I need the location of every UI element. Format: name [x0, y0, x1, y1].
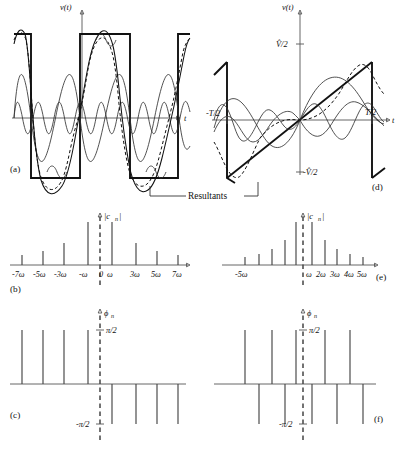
panel-b-y-axis-label-group: |c n |: [104, 212, 121, 222]
panel-e-tick-pos3: 3ω: [329, 270, 340, 279]
panel-b-label: (b): [10, 284, 21, 294]
panel-d: v(t) V̂/2 -V̂/2 -T/2 T/2 t (d): [206, 3, 395, 192]
panel-a-y-axis-label: v(t): [60, 3, 72, 12]
panel-e-y-axis-label-sub: n: [318, 215, 321, 222]
panel-a-x-axis-label: t: [184, 114, 187, 123]
panel-e-tick-pos1: ω: [306, 270, 312, 279]
panel-f-label: (f): [374, 414, 383, 424]
panel-c-tick-pos-label: π/2: [106, 326, 117, 335]
panel-f-y-arrowhead: [301, 309, 305, 313]
panel-d-ramp-right-tail: [372, 168, 385, 178]
resultants-annotation: Resultants: [150, 182, 258, 201]
panel-c-tick-neg-label: -π/2: [76, 420, 90, 429]
panel-d-y-axis-label: v(t): [282, 3, 294, 12]
resultants-leader-left: [150, 186, 186, 196]
panel-c-y-axis-label-sub: n: [111, 312, 114, 319]
panel-d-ramp-left-tail: [214, 62, 227, 75]
panel-e-y-axis-label-group: |c n |: [307, 212, 324, 222]
panel-f-y-axis-label: ϕ: [307, 309, 312, 318]
panel-a-resultant-dashed: [14, 33, 190, 190]
panel-a-ripple-bottom-1: [47, 166, 67, 178]
panel-b-tick-neg3: -3ω: [54, 270, 67, 279]
panel-e-tick-pos5: 5ω: [357, 270, 367, 279]
resultants-leader-right: [244, 182, 258, 196]
panel-b-y-axis-label-sub: n: [115, 215, 118, 222]
panel-d-y-tick-neg-label: -V̂/2: [303, 167, 317, 177]
panel-d-label: (d): [372, 182, 383, 192]
panel-f: ϕ n π/2 -π/2 (f): [214, 309, 383, 440]
panel-e-tick-pos4: 4ω: [344, 270, 354, 279]
panel-d-x-axis-label: t: [392, 116, 395, 125]
panel-b-tick-neg5: -5ω: [33, 270, 46, 279]
panel-b-tick-pos1: ω: [107, 270, 113, 279]
panel-d-x-tick-neg-label: -T/2: [206, 109, 220, 118]
panel-b-tick-zero: 0: [99, 270, 103, 279]
panel-a: v(t) t (a): [10, 3, 190, 194]
panel-b-tick-neg1: -ω: [79, 270, 88, 279]
fourier-series-figure: v(t) t (a) v(t) V̂/2 -V̂/2: [0, 0, 400, 452]
resultants-label: Resultants: [188, 191, 227, 201]
panel-f-y-axis-label-sub: n: [314, 312, 317, 319]
panel-c-label: (c): [10, 410, 20, 420]
panel-e-y-arrowhead: [301, 213, 305, 217]
panel-b-tick-pos7: 7ω: [172, 270, 182, 279]
panel-b-y-arrowhead: [98, 213, 102, 217]
panel-e-tick-neg5: -5ω: [235, 270, 248, 279]
panel-b-tick-neg7: -7ω: [12, 270, 25, 279]
panel-b-y-axis-label-close: |: [119, 212, 121, 221]
panel-e-tick-pos2: 2ω: [316, 270, 326, 279]
panel-f-tick-pos-label: π/2: [309, 326, 320, 335]
panel-a-label: (a): [10, 164, 20, 174]
panel-f-y-axis-label-group: ϕ n: [307, 309, 317, 319]
panel-c-y-axis-label: ϕ: [104, 309, 109, 318]
panel-b-y-axis-label: |c: [104, 212, 110, 221]
panel-c-y-arrowhead: [98, 309, 102, 313]
panel-e-y-axis-label: |c: [307, 212, 313, 221]
panel-e-label: (e): [376, 272, 386, 282]
panel-c: ϕ n π/2 -π/2 (c): [10, 309, 186, 440]
panel-a-resultant-solid: [14, 30, 190, 194]
panel-f-tick-neg-label: -π/2: [279, 420, 293, 429]
panel-d-y-tick-pos-label: V̂/2: [276, 39, 288, 49]
panel-c-y-axis-label-group: ϕ n: [104, 309, 114, 319]
figure-root: v(t) t (a) v(t) V̂/2 -V̂/2: [0, 0, 400, 452]
panel-b-tick-pos3: 3ω: [129, 270, 140, 279]
panel-b: |c n | -7ω -5ω -3ω -ω 0 ω 3ω 5ω 7ω (b): [10, 212, 190, 294]
panel-e: |c n | -5ω ω 2ω 3ω 4ω 5ω (e): [222, 212, 386, 285]
panel-e-y-axis-label-close: |: [322, 212, 324, 221]
panel-b-tick-pos5: 5ω: [151, 270, 161, 279]
panel-d-x-tick-pos-label: T/2: [365, 108, 376, 117]
panel-d-third-harmonic: [214, 103, 384, 141]
